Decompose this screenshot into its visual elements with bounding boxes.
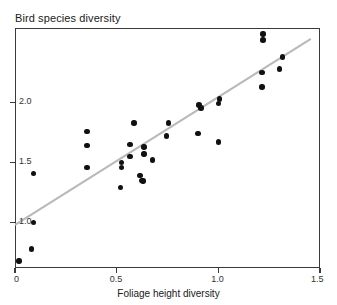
data-point	[131, 120, 136, 125]
scatter-plot-figure: Bird species diversity 1.01.52.000.51.01…	[0, 0, 337, 305]
data-point	[164, 133, 169, 138]
data-point	[166, 120, 171, 125]
x-axis-tick-label: 1.0	[211, 274, 224, 284]
data-point	[141, 151, 146, 156]
x-axis-title: Foliage height diversity	[0, 288, 337, 299]
data-point	[119, 165, 124, 170]
data-point	[84, 143, 89, 148]
data-point	[127, 142, 132, 147]
y-axis-tick-label: 1.5	[19, 156, 32, 166]
data-point	[198, 105, 203, 110]
data-point	[119, 160, 124, 165]
data-point	[260, 37, 265, 42]
y-axis-tick-mark	[10, 162, 15, 163]
y-axis-tick-mark	[10, 102, 15, 103]
x-axis-tick-mark	[14, 268, 15, 273]
data-point	[31, 171, 36, 176]
plot-title: Bird species diversity	[15, 12, 121, 24]
data-point	[216, 101, 221, 106]
y-axis-tick-label: 2.0	[19, 96, 32, 106]
x-axis-tick-label: 0	[14, 274, 19, 284]
data-point	[259, 70, 264, 75]
data-point	[29, 246, 34, 251]
data-point	[141, 144, 146, 149]
x-axis-tick-label: 1.5	[311, 274, 324, 284]
data-point	[150, 157, 155, 162]
data-point	[140, 178, 145, 183]
data-point	[217, 96, 222, 101]
x-axis-tick-mark	[319, 268, 320, 273]
plot-canvas	[15, 28, 320, 268]
data-point	[277, 66, 282, 71]
data-point	[127, 154, 132, 159]
data-point	[84, 129, 89, 134]
data-point	[84, 165, 89, 170]
x-axis-tick-mark	[218, 268, 219, 273]
data-point	[118, 185, 123, 190]
data-point	[216, 139, 221, 144]
data-point	[260, 31, 265, 36]
data-point	[280, 54, 285, 59]
data-point	[16, 258, 21, 263]
y-axis-tick-label: 1.0	[19, 216, 32, 226]
data-point	[259, 84, 264, 89]
x-axis-tick-mark	[116, 268, 117, 273]
y-axis-tick-mark	[10, 222, 15, 223]
x-axis-tick-label: 0.5	[110, 274, 123, 284]
data-point	[195, 131, 200, 136]
